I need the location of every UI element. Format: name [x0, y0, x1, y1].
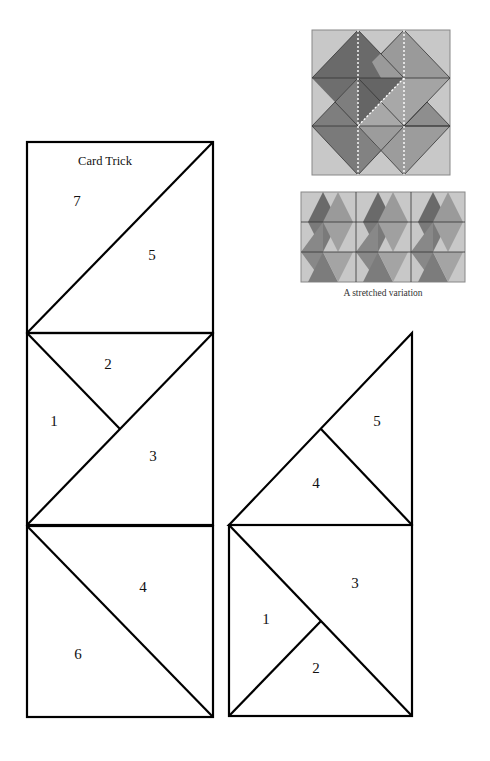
stretched-variation-caption: A stretched variation	[343, 288, 422, 298]
left-column-pattern: Card Trick 7 5 2 1 3 4 6	[27, 142, 213, 717]
piece-label-1-right: 1	[262, 611, 270, 627]
card-trick-title: Card Trick	[78, 154, 133, 168]
piece-label-5: 5	[148, 247, 156, 263]
right-column-pattern: 5 4 3 1 2	[229, 333, 412, 716]
card-trick-diagram: A stretched variation Card Trick 7 5 2 1…	[0, 0, 490, 761]
piece-label-1: 1	[50, 413, 58, 429]
middle-square: 2 1 3	[27, 333, 213, 525]
piece-label-3-right: 3	[351, 575, 359, 591]
piece-label-2-right: 2	[312, 660, 320, 676]
piece-label-7: 7	[73, 193, 81, 209]
piece-label-2: 2	[104, 356, 112, 372]
piece-label-6: 6	[74, 646, 82, 662]
bottom-square-right: 3 1 2	[229, 525, 412, 716]
bottom-square: 4 6	[27, 526, 213, 717]
stretched-variation-thumbnail: A stretched variation	[301, 192, 465, 298]
piece-label-4-right: 4	[312, 475, 320, 491]
card-trick-block-thumbnail	[312, 30, 450, 175]
piece-label-5-right: 5	[373, 413, 381, 429]
piece-label-4: 4	[139, 579, 147, 595]
piece-label-3: 3	[149, 448, 157, 464]
top-square: Card Trick 7 5	[27, 142, 213, 333]
top-triangle: 5 4	[229, 333, 412, 525]
